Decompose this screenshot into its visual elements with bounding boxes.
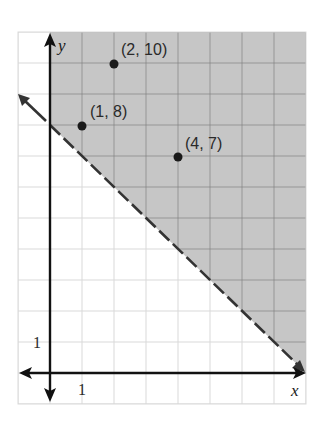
y-axis-label: y <box>56 36 66 55</box>
data-point-2-10 <box>110 60 119 69</box>
point-label-4-7: (4, 7) <box>185 135 222 152</box>
x-tick-label-1: 1 <box>78 381 86 398</box>
coordinate-plane: y x 1 1 (1, 8) (2, 10) (4, 7) <box>0 0 317 426</box>
point-label-2-10: (2, 10) <box>121 41 167 58</box>
boundary-line-extension <box>24 100 46 121</box>
x-axis-label: x <box>290 381 299 400</box>
point-label-1-8: (1, 8) <box>90 103 127 120</box>
data-point-1-8 <box>78 122 87 131</box>
y-tick-label-1: 1 <box>33 334 41 351</box>
data-point-4-7 <box>174 153 183 162</box>
